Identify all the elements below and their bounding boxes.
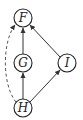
node-h: H [14,99,32,117]
node-h-label: H [17,101,29,115]
node-g: G [14,54,32,72]
node-f-label: F [18,11,28,25]
edge-h-i [30,70,60,102]
edge-i-f [30,25,60,57]
node-i: I [58,54,76,72]
node-f: F [14,9,32,27]
node-g-label: G [18,56,28,70]
graph-diagram: F G I H [0,0,83,120]
node-i-label: I [64,56,70,70]
